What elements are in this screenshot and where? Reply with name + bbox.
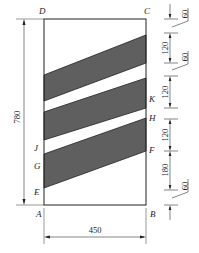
arrow-right-icon	[140, 236, 146, 239]
diagram-canvas: 780 450 60 120 60	[0, 0, 199, 253]
point-label-K: K	[148, 94, 156, 104]
width-dimension-label: 450	[89, 225, 102, 235]
chain-label-4: 120	[160, 86, 170, 99]
chain-label-7: 60	[180, 182, 190, 191]
point-label-B: B	[150, 209, 156, 219]
chain-label-5: 120	[160, 129, 170, 142]
point-label-H: H	[148, 113, 156, 123]
point-label-C: C	[144, 6, 151, 16]
point-label-D: D	[38, 6, 46, 16]
height-dimension-label: 780	[12, 111, 22, 124]
point-label-E: E	[33, 187, 40, 197]
point-label-A: A	[35, 209, 42, 219]
point-label-F: F	[148, 145, 155, 155]
point-label-J: J	[34, 143, 39, 153]
arrow-down-icon	[23, 199, 26, 205]
chain-label-2: 120	[160, 42, 170, 55]
arrow-left-icon	[44, 236, 50, 239]
point-label-G: G	[34, 161, 41, 171]
chain-label-1: 60	[180, 10, 190, 19]
chain-label-6: 180	[160, 164, 170, 177]
chain-label-3: 60	[180, 53, 190, 62]
arrow-up-icon	[23, 19, 26, 25]
